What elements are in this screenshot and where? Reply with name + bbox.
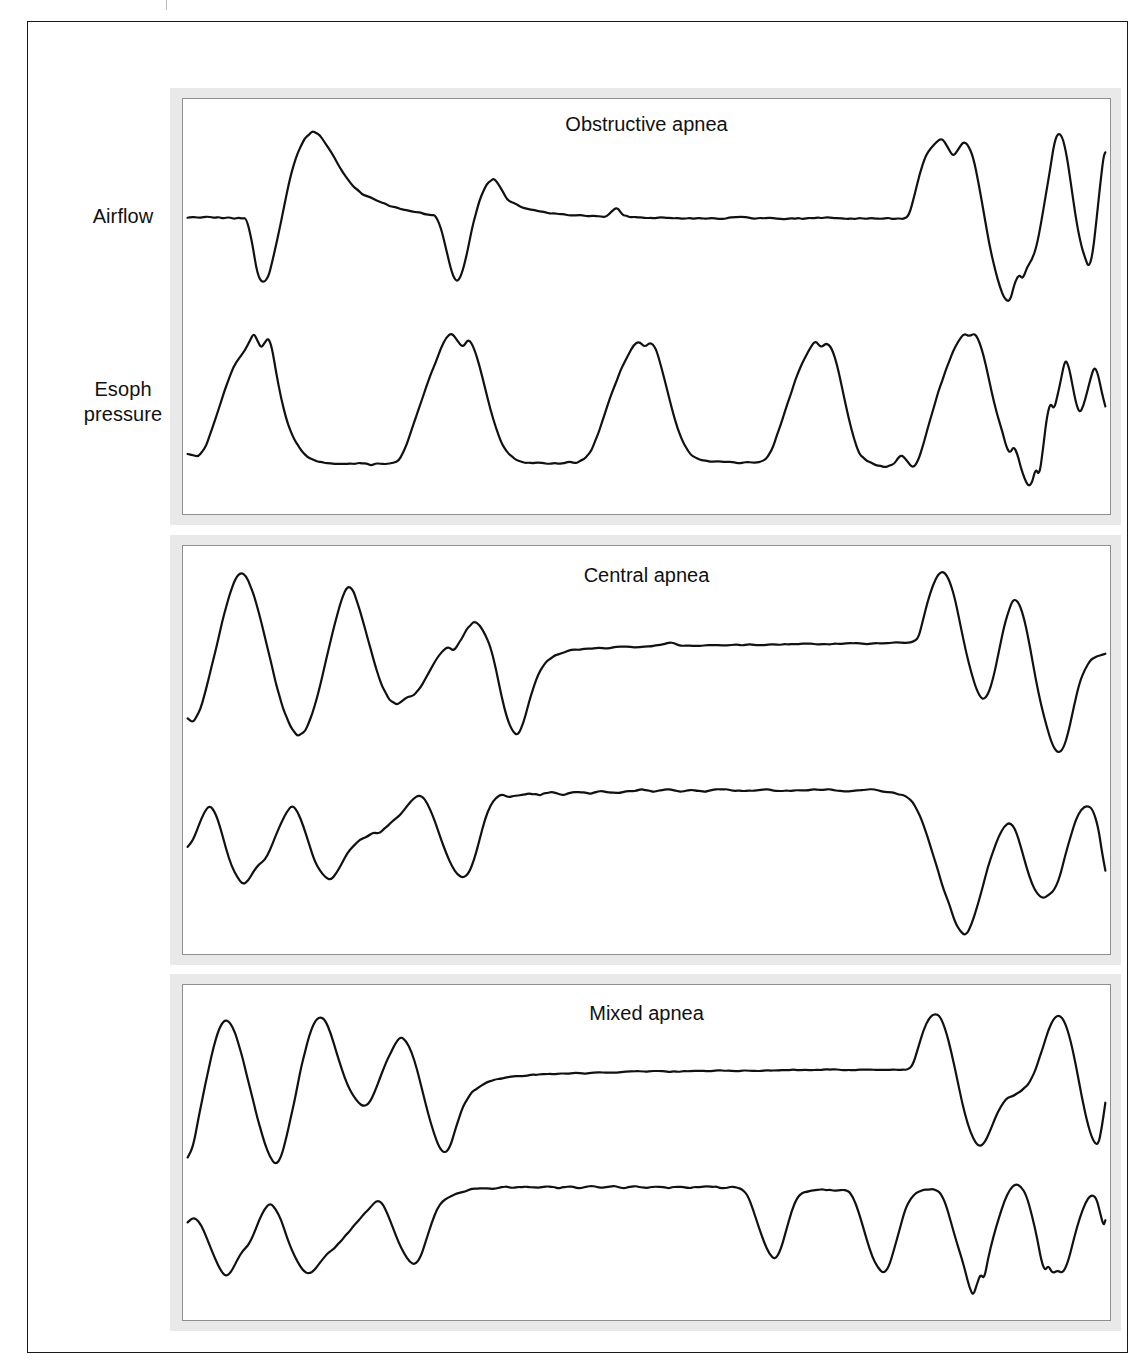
trace-esoph-mixed — [188, 1185, 1106, 1294]
plot-area-central: Central apnea — [182, 545, 1111, 955]
trace-esoph-obstructive — [188, 334, 1106, 485]
figure-outer-frame: Airflow Esoph pressure Obstructive apnea… — [27, 21, 1128, 1353]
panel-central-apnea: Central apnea — [170, 535, 1121, 965]
trace-airflow-obstructive — [188, 132, 1106, 301]
trace-airflow-central — [188, 572, 1106, 752]
plot-area-obstructive: Obstructive apnea — [182, 98, 1111, 515]
channel-label-airflow: Airflow — [68, 204, 178, 229]
traces-obstructive — [183, 99, 1110, 514]
channel-label-esoph-pressure: Esoph pressure — [68, 377, 178, 427]
trace-esoph-central — [188, 789, 1106, 934]
traces-mixed — [183, 985, 1110, 1320]
traces-central — [183, 546, 1110, 954]
trace-airflow-mixed — [188, 1014, 1106, 1163]
plot-area-mixed: Mixed apnea — [182, 984, 1111, 1321]
scan-artifact-tick — [166, 0, 167, 10]
panel-mixed-apnea: Mixed apnea — [170, 974, 1121, 1331]
panel-obstructive-apnea: Obstructive apnea — [170, 88, 1121, 525]
